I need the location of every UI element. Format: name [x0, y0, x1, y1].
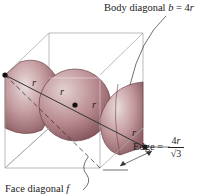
face-diagonal-leader	[83, 157, 89, 190]
body-diagonal-leader	[130, 16, 166, 85]
edge-label: Edge =	[133, 142, 163, 153]
body-diagonal-label: Body diagonal b = 4r	[104, 3, 194, 14]
edge-denominator: √3	[168, 148, 184, 159]
edge-fraction: 4r √3	[168, 136, 184, 159]
body-diagonal-r: r	[190, 2, 194, 13]
edge-numerator-var: r	[177, 135, 181, 146]
radius-label: r	[60, 87, 64, 98]
radius-label: r	[132, 128, 136, 139]
center-dot	[72, 102, 77, 107]
radius-label: r	[92, 100, 96, 111]
face-diagonal-label: Face diagonal f	[5, 184, 69, 195]
face-diagonal-text: Face diagonal	[5, 183, 66, 194]
radius-label: r	[32, 78, 36, 89]
face-diagonal-var: f	[66, 183, 69, 194]
body-diagonal-text: Body diagonal	[104, 2, 168, 13]
corner-dot-left	[2, 72, 7, 77]
body-diagonal-eq: = 4	[173, 2, 189, 13]
bcc-diagram	[0, 0, 201, 196]
